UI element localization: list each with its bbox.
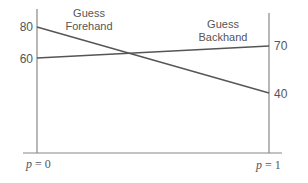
chart: 80 60 70 40 Guess Forehand Guess Backhan… <box>0 0 308 183</box>
guess-forehand-label-line1: Guess <box>73 7 105 19</box>
guess-backhand-line <box>37 46 269 58</box>
left-tick-80: 80 <box>20 20 34 34</box>
x-label-p0: p = 0 <box>25 157 51 171</box>
right-tick-40: 40 <box>274 87 288 101</box>
guess-backhand-label-line1: Guess <box>207 18 239 30</box>
left-tick-60: 60 <box>20 52 34 66</box>
x-label-p1: p = 1 <box>255 158 281 172</box>
guess-backhand-label-line2: Backhand <box>199 31 248 43</box>
right-tick-70: 70 <box>274 39 288 53</box>
guess-forehand-label-line2: Forehand <box>65 20 112 32</box>
